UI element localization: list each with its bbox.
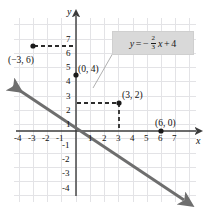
xtick-label: 4 [130, 134, 135, 143]
ytick-label: -4 [62, 184, 70, 193]
xtick-label: 3 [116, 134, 121, 143]
point-label-3-2: (3, 2) [122, 91, 143, 101]
point-label-6-0: (6, 0) [155, 119, 176, 129]
point-label-neg3-6: (−3, 6) [8, 56, 34, 66]
equation-callout: y = − 2 3 x + 4 [112, 31, 194, 55]
ytick-label: -1 [62, 141, 70, 150]
ytick-label: 5 [66, 63, 71, 72]
ytick-label: 6 [66, 49, 71, 58]
ytick-label: 2 [66, 106, 71, 115]
ytick-label: -2 [62, 155, 70, 164]
equation-intercept: 4 [171, 38, 176, 49]
equation-x: x [158, 38, 162, 49]
ytick-label: 4 [66, 77, 71, 86]
point-neg3-6 [30, 43, 35, 48]
xtick-label: 7 [172, 134, 177, 143]
xtick-label: -2 [42, 134, 50, 143]
ytick-label: 7 [66, 35, 71, 44]
xtick-label: -4 [14, 134, 22, 143]
point-label-0-4: (0, 4) [78, 65, 99, 75]
fraction-denominator: 3 [151, 44, 157, 51]
y-axis-label: y [67, 7, 71, 17]
xtick-label: 5 [144, 134, 149, 143]
xtick-label: 2 [102, 134, 107, 143]
xtick-label: 1 [88, 134, 93, 143]
equation-equals: = [136, 38, 142, 49]
x-axis-label: x [196, 136, 200, 146]
data-points [30, 43, 163, 133]
xtick-label: -3 [28, 134, 36, 143]
equation-plus: + [164, 38, 170, 49]
xtick-label: 6 [158, 134, 163, 143]
point-3-2 [116, 100, 121, 105]
equation-minus: − [143, 38, 149, 49]
ytick-label: 3 [66, 92, 71, 101]
ytick-label: -3 [62, 169, 70, 178]
graph-figure: y x -4 -3 -2 -1 1 2 3 4 5 6 7 7 6 5 4 3 … [0, 0, 208, 210]
equation-y: y [130, 38, 134, 49]
equation-text: y = − 2 3 x + 4 [130, 35, 176, 51]
ytick-label: 1 [66, 120, 71, 129]
equation-fraction: 2 3 [151, 35, 157, 51]
